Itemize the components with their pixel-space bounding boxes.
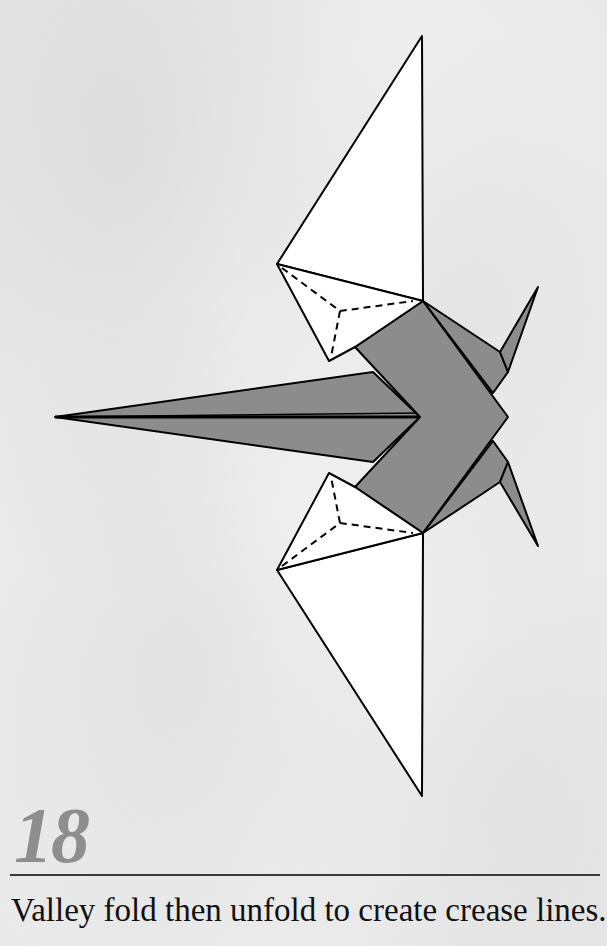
lower-beak-point xyxy=(500,462,538,546)
upper-beak-point xyxy=(500,287,538,372)
origami-diagram xyxy=(0,0,607,946)
upper-wing xyxy=(277,36,423,301)
lower-wing xyxy=(277,533,423,796)
divider-line xyxy=(10,874,600,876)
step-instruction: Valley fold then unfold to create crease… xyxy=(11,894,607,927)
step-number: 18 xyxy=(14,796,88,874)
